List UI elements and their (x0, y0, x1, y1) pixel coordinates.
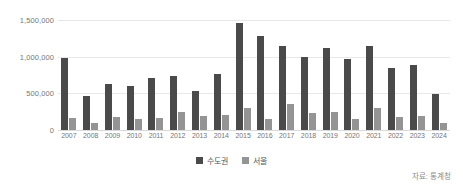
bar-group (145, 20, 167, 130)
bar-group (319, 20, 341, 130)
bar (265, 119, 272, 130)
y-axis-tick-label: 0 (50, 126, 54, 135)
bar (113, 117, 120, 130)
bar-group (167, 20, 189, 130)
x-axis-tick-label: 2018 (301, 132, 316, 139)
bar (222, 115, 229, 130)
bar (148, 78, 155, 130)
y-axis-tick-label: 500,000 (26, 89, 54, 98)
x-axis-tick-label: 2013 (192, 132, 207, 139)
chart-legend: 수도권서울 (0, 155, 463, 166)
bar-group (102, 20, 124, 130)
bar (352, 119, 359, 130)
x-axis-tick-label: 2015 (236, 132, 251, 139)
x-axis: 2007200820092010201120122013201420152016… (58, 132, 450, 144)
bar (170, 76, 177, 130)
source-note: 자료: 통계청 (412, 170, 451, 181)
bar (178, 112, 185, 130)
x-axis-tick-label: 2019 (323, 132, 338, 139)
bar-group (363, 20, 385, 130)
bar-groups (58, 20, 450, 130)
bar-group (210, 20, 232, 130)
bar-group (406, 20, 428, 130)
bar (418, 116, 425, 130)
bar-group (276, 20, 298, 130)
axis-baseline (58, 130, 450, 131)
bar (244, 108, 251, 130)
bar-group (385, 20, 407, 130)
x-axis-tick-label: 2009 (105, 132, 120, 139)
x-axis-tick-label: 2023 (410, 132, 425, 139)
bar (69, 118, 76, 130)
bar (236, 23, 243, 130)
bar (344, 59, 351, 130)
bar (61, 58, 68, 130)
bar (83, 96, 90, 130)
bar (127, 86, 134, 130)
y-axis-tick-label: 1,500,000 (20, 16, 54, 25)
bar (331, 112, 338, 130)
legend-swatch-icon (196, 157, 203, 164)
bar (366, 46, 373, 130)
legend-item[interactable]: 수도권 (196, 155, 228, 166)
bar (323, 48, 330, 130)
bar (91, 123, 98, 130)
x-axis-tick-label: 2017 (279, 132, 294, 139)
bar (279, 46, 286, 130)
bar-group (80, 20, 102, 130)
bar-group (428, 20, 450, 130)
bar (309, 113, 316, 130)
bar (432, 94, 439, 130)
x-axis-tick-label: 2020 (344, 132, 359, 139)
x-axis-tick-label: 2008 (83, 132, 98, 139)
bar-chart: 1,500,0001,000,000500,0000 2007200820092… (0, 0, 463, 187)
x-axis-tick-label: 2010 (127, 132, 142, 139)
bar (287, 104, 294, 130)
bar-group (189, 20, 211, 130)
bar (301, 57, 308, 130)
legend-label: 서울 (253, 155, 267, 166)
legend-label: 수도권 (207, 155, 228, 166)
bar (410, 65, 417, 130)
bar (388, 68, 395, 130)
y-axis: 1,500,0001,000,000500,0000 (0, 0, 54, 140)
bar (105, 84, 112, 130)
bar (214, 74, 221, 130)
x-axis-tick-label: 2011 (149, 132, 164, 139)
bar-group (58, 20, 80, 130)
x-axis-tick-label: 2021 (366, 132, 381, 139)
legend-item[interactable]: 서울 (242, 155, 267, 166)
bar-group (341, 20, 363, 130)
bar (257, 36, 264, 130)
legend-swatch-icon (242, 157, 249, 164)
bar (156, 118, 163, 130)
bar-group (298, 20, 320, 130)
bar (374, 108, 381, 130)
bar (440, 123, 447, 130)
y-axis-tick-label: 1,000,000 (20, 52, 54, 61)
plot-area (58, 20, 450, 130)
bar (200, 116, 207, 130)
bar-group (254, 20, 276, 130)
x-axis-tick-label: 2022 (388, 132, 403, 139)
x-axis-tick-label: 2014 (214, 132, 229, 139)
bar (135, 119, 142, 130)
bar-group (232, 20, 254, 130)
x-axis-tick-label: 2012 (170, 132, 185, 139)
x-axis-tick-label: 2007 (61, 132, 76, 139)
x-axis-tick-label: 2024 (432, 132, 447, 139)
bar (192, 91, 199, 130)
x-axis-tick-label: 2016 (257, 132, 272, 139)
bar (396, 117, 403, 130)
bar-group (123, 20, 145, 130)
